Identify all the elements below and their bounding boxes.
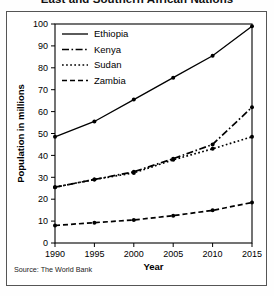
series-line-zambia xyxy=(55,202,252,225)
data-point-ethiopia xyxy=(211,54,215,58)
legend-label-kenya: Kenya xyxy=(94,44,122,55)
data-point-sudan xyxy=(171,158,175,162)
axis-labels-group: 0102030405060708090100199019952000200520… xyxy=(14,19,262,274)
data-point-sudan xyxy=(132,171,136,175)
x-tick-label: 2005 xyxy=(163,249,183,259)
x-tick-label: 1995 xyxy=(84,249,104,259)
data-point-zambia xyxy=(250,200,254,204)
data-point-zambia xyxy=(92,221,96,225)
axes-group xyxy=(51,24,252,247)
data-point-zambia xyxy=(211,208,215,212)
series-group xyxy=(53,24,254,227)
data-point-kenya xyxy=(211,142,215,146)
data-point-ethiopia xyxy=(92,119,96,123)
chart-figure: East and Southern African Nations Ethiop… xyxy=(0,0,274,296)
series-line-ethiopia xyxy=(55,26,252,137)
x-tick-label: 2015 xyxy=(242,249,262,259)
data-point-zambia xyxy=(53,223,57,227)
data-point-sudan xyxy=(211,147,215,151)
chart-legend: EthiopiaKenyaSudanZambia xyxy=(62,28,129,86)
x-axis-title: Year xyxy=(143,261,163,272)
data-point-zambia xyxy=(171,214,175,218)
data-point-sudan xyxy=(250,135,254,139)
y-tick-label: 60 xyxy=(38,107,48,117)
plot-area-border xyxy=(55,24,252,243)
data-point-zambia xyxy=(132,218,136,222)
y-tick-label: 30 xyxy=(38,173,48,183)
x-tick-label: 2000 xyxy=(124,249,144,259)
y-tick-label: 70 xyxy=(38,85,48,95)
y-tick-label: 50 xyxy=(38,129,48,139)
series-line-sudan xyxy=(55,137,252,187)
y-tick-label: 20 xyxy=(38,194,48,204)
data-point-ethiopia xyxy=(250,24,254,28)
data-point-sudan xyxy=(92,177,96,181)
line-chart: EthiopiaKenyaSudanZambia 010203040506070… xyxy=(0,0,274,296)
legend-label-zambia: Zambia xyxy=(94,75,126,86)
source-note: Source: The World Bank xyxy=(14,265,92,274)
y-tick-label: 80 xyxy=(38,63,48,73)
x-tick-label: 1990 xyxy=(45,249,65,259)
y-tick-label: 10 xyxy=(38,216,48,226)
y-tick-label: 100 xyxy=(33,19,48,29)
y-axis-title: Population in millions xyxy=(15,84,26,183)
x-tick-label: 2010 xyxy=(203,249,223,259)
data-point-ethiopia xyxy=(132,98,136,102)
data-point-ethiopia xyxy=(53,135,57,139)
data-point-sudan xyxy=(53,185,57,189)
legend-label-sudan: Sudan xyxy=(94,59,121,70)
y-tick-label: 0 xyxy=(43,238,48,248)
series-line-kenya xyxy=(55,107,252,187)
y-tick-label: 40 xyxy=(38,151,48,161)
y-tick-label: 90 xyxy=(38,41,48,51)
data-point-ethiopia xyxy=(171,76,175,80)
data-point-kenya xyxy=(250,105,254,109)
legend-label-ethiopia: Ethiopia xyxy=(94,28,129,39)
